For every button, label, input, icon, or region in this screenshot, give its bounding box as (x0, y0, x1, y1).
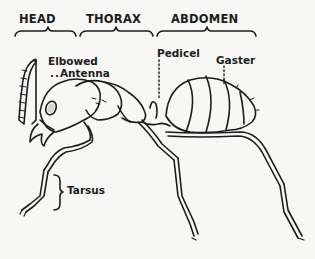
hind-leg (166, 132, 304, 240)
brace-thorax (80, 27, 153, 36)
gaster (166, 76, 259, 133)
brace-tarsus (54, 175, 63, 210)
antenna (19, 59, 36, 124)
brace-head (15, 27, 76, 36)
ant-anatomy-diagram: HEAD THORAX ABDOMEN Elbowed ..Antenna Pe… (0, 0, 315, 259)
middle-leg (138, 120, 198, 240)
thorax (76, 81, 170, 126)
ant-illustration (0, 0, 315, 259)
brace-abdomen (157, 27, 256, 36)
